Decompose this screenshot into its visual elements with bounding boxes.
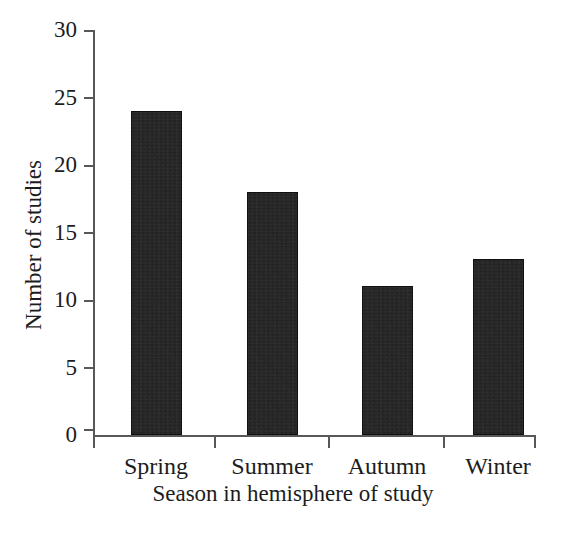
x-axis-tick-1: [214, 437, 216, 448]
bar-chart-figure: 30 25 20 15 10 5 0 Number of studies Spr…: [0, 0, 586, 537]
x-axis-label-winter: Winter: [448, 452, 548, 480]
x-axis-tick-4: [534, 437, 536, 448]
x-axis-title: Season in hemisphere of study: [0, 481, 586, 507]
x-axis-tick-3: [443, 437, 445, 448]
y-axis-tick-label-25: 25: [25, 86, 77, 109]
x-axis-tick-0: [93, 437, 95, 448]
y-axis-tick-5: [84, 367, 93, 369]
x-axis-label-spring: Spring: [106, 452, 206, 480]
bar-autumn: [362, 286, 413, 435]
y-axis-tick-10: [84, 300, 93, 302]
y-axis-tick-label-30: 30: [25, 18, 77, 41]
y-axis-tick-15: [84, 232, 93, 234]
x-axis-label-summer: Summer: [222, 452, 322, 480]
y-axis-tick-label-5: 5: [25, 356, 77, 379]
x-axis-label-autumn: Autumn: [337, 452, 437, 480]
bar-spring: [131, 111, 182, 435]
bar-summer: [247, 192, 298, 435]
bar-winter: [473, 259, 524, 435]
y-axis-line: [93, 30, 95, 436]
y-axis-tick-20: [84, 165, 93, 167]
y-axis-tick-25: [84, 97, 93, 99]
x-axis-line: [93, 435, 536, 437]
y-axis-title: Number of studies: [21, 145, 47, 345]
y-axis-tick-label-0: 0: [25, 423, 77, 446]
y-axis-tick-30: [84, 30, 93, 32]
y-axis-tick-0: [84, 429, 93, 431]
x-axis-tick-2: [328, 437, 330, 448]
